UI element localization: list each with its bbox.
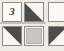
tile-r2c1[interactable] [2, 26, 22, 46]
tile-grid-canvas: 3 [0, 0, 64, 51]
tile-r2c3[interactable] [48, 26, 64, 46]
tile-r1c3-face [49, 3, 64, 21]
row-separator [0, 22, 46, 24]
tile-r1c2[interactable] [24, 2, 44, 22]
tile-r2c2-face [25, 27, 43, 45]
tile-r1c1-digit-label: 3 [3, 3, 21, 21]
tile-r1c1[interactable]: 3 [2, 2, 22, 22]
tile-r2c2[interactable] [24, 26, 44, 46]
tile-r1c2-face [25, 3, 43, 21]
triangle-upper-left-shape [49, 27, 64, 45]
solid-fill-shape [26, 28, 42, 44]
tile-r2c1-face [3, 27, 21, 45]
triangle-lower-left-shape [25, 3, 43, 21]
tile-r2c3-face [49, 27, 64, 45]
tile-r1c3-background [49, 3, 64, 21]
tile-r1c1-face: 3 [3, 3, 21, 21]
triangle-upper-right-shape [3, 27, 21, 45]
tile-r1c3[interactable] [48, 2, 64, 22]
